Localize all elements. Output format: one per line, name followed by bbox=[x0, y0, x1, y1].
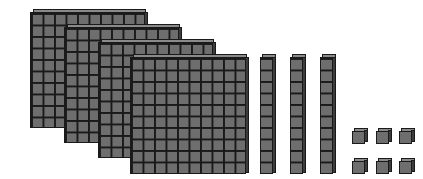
unit-cube-5 bbox=[376, 158, 392, 174]
unit-cube-1 bbox=[352, 128, 368, 144]
tens-rod-3 bbox=[320, 54, 336, 175]
tens-rod-2 bbox=[290, 54, 306, 175]
diagram-title: Base-ten blocks bbox=[0, 0, 1, 1]
unit-cube-4 bbox=[352, 158, 368, 174]
tens-rod-1 bbox=[260, 54, 276, 175]
hundreds-flat-4 bbox=[130, 54, 249, 175]
unit-cube-2 bbox=[376, 128, 392, 144]
unit-cube-6 bbox=[399, 158, 415, 174]
unit-cube-3 bbox=[399, 128, 415, 144]
